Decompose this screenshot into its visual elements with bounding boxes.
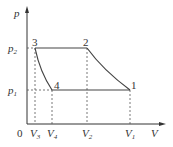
point-1-label: 1 <box>131 79 137 91</box>
process-2-1 <box>87 48 130 90</box>
x-axis-arrow-icon <box>159 122 166 126</box>
process-3-4 <box>35 48 52 90</box>
y-tick-p1: p1 <box>7 84 17 98</box>
point-4-label: 4 <box>54 79 60 91</box>
pv-diagram: p V 0 p2 p1 V3 V4 V2 V1 1 2 3 4 <box>0 0 173 147</box>
x-axis-label: V <box>151 127 159 139</box>
x-tick-v2: V2 <box>82 127 93 141</box>
x-tick-v3: V3 <box>30 127 41 141</box>
cycle-path <box>35 48 130 90</box>
point-3-label: 3 <box>32 36 38 48</box>
origin-label: 0 <box>17 127 23 139</box>
point-2-label: 2 <box>83 36 89 48</box>
x-tick-v1: V1 <box>125 127 135 141</box>
y-axis-arrow-icon <box>25 6 29 13</box>
dashed-guides <box>27 48 130 124</box>
x-tick-v4: V4 <box>47 127 58 141</box>
y-axis-label: p <box>13 7 20 19</box>
y-tick-p2: p2 <box>7 42 18 56</box>
